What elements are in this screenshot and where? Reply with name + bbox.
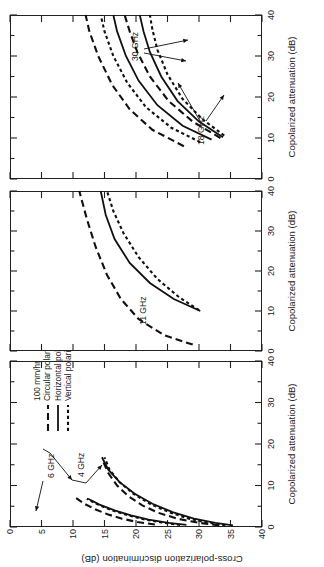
- legend-title: 100 mm/hr: [32, 361, 42, 401]
- annotation-30ghz: 30 GHz: [130, 32, 140, 61]
- annotation-arrowhead: [220, 95, 224, 100]
- panel-right: 010203040Copolarized attenuation (dB)18 …: [10, 15, 262, 179]
- annotation-6ghz: 6 GHz: [46, 454, 56, 478]
- x-axis-tick-10: 10: [266, 306, 276, 316]
- annotation-4ghz: 4 GHz: [76, 453, 86, 477]
- y-axis-tick-30: 30: [194, 529, 204, 539]
- legend-key-dashed-short: [63, 405, 73, 431]
- y-axis-tick-labels: 0510152025303540: [0, 529, 324, 551]
- x-axis-tick-0: 0: [266, 524, 276, 529]
- x-axis-label: Copolarized attenuation (dB): [286, 191, 297, 351]
- x-axis-tick-10: 10: [266, 133, 276, 143]
- x-axis-tick-20: 20: [266, 439, 276, 449]
- x-axis-label: Copolarized attenuation (dB): [286, 361, 297, 527]
- rotated-figure-wrapper: Cross-polarization discrimination (dB) 0…: [0, 0, 324, 567]
- x-axis-tick-30: 30: [266, 51, 276, 61]
- panel-left: 010203040Copolarized attenuation (dB)6 G…: [10, 361, 262, 527]
- y-axis-label: Cross-polarization discrimination (dB): [0, 551, 324, 565]
- data-curve: [101, 191, 201, 311]
- x-axis-tick-10: 10: [266, 480, 276, 490]
- data-curve: [102, 459, 219, 525]
- x-axis-tick-labels: 010203040: [266, 361, 280, 527]
- data-curve: [102, 457, 233, 525]
- x-axis-label: Copolarized attenuation (dB): [286, 15, 297, 179]
- panel-group: 010203040Copolarized attenuation (dB)6 G…: [0, 3, 324, 527]
- panel-middle: 010203040Copolarized attenuation (dB)11 …: [10, 191, 262, 351]
- x-axis-tick-20: 20: [266, 92, 276, 102]
- x-axis-tick-40: 40: [266, 10, 276, 20]
- y-axis-tick-5: 5: [37, 529, 47, 534]
- annotation-leader-line: [144, 40, 188, 49]
- x-axis-tick-labels: 010203040: [266, 15, 280, 179]
- annotation-arrowhead: [183, 39, 188, 43]
- legend-key-solid: [53, 405, 63, 431]
- annotation-leader-line: [144, 53, 186, 61]
- figure-canvas: Cross-polarization discrimination (dB) 0…: [0, 0, 324, 567]
- x-axis-tick-0: 0: [266, 176, 276, 181]
- x-axis-tick-40: 40: [266, 356, 276, 366]
- x-axis-tick-40: 40: [266, 186, 276, 196]
- annotation-18ghz: 18 GHz: [196, 116, 206, 145]
- annotation-11ghz: 11 GHz: [138, 297, 148, 326]
- y-axis-tick-35: 35: [226, 529, 236, 539]
- y-axis-tick-20: 20: [131, 529, 141, 539]
- y-axis-tick-25: 25: [163, 529, 173, 539]
- y-axis-tick-10: 10: [68, 529, 78, 539]
- legend-key-dashed-long: [43, 405, 53, 431]
- y-axis-tick-15: 15: [100, 529, 110, 539]
- annotation-arrowhead: [35, 506, 39, 511]
- data-curve: [107, 191, 199, 310]
- y-axis-tick-0: 0: [5, 529, 15, 534]
- x-axis-tick-labels: 010203040: [266, 191, 280, 351]
- data-curve: [140, 15, 223, 137]
- x-axis-tick-30: 30: [266, 226, 276, 236]
- plot-area: [10, 191, 262, 351]
- x-axis-tick-30: 30: [266, 397, 276, 407]
- data-curve: [79, 191, 192, 345]
- x-axis-tick-20: 20: [266, 266, 276, 276]
- annotation-arrowhead: [181, 58, 186, 62]
- y-axis-tick-40: 40: [257, 529, 267, 539]
- x-axis-tick-0: 0: [266, 348, 276, 353]
